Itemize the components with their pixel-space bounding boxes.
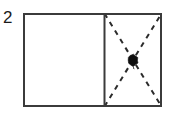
left-cell	[23, 13, 104, 107]
dot-core-shape	[129, 56, 137, 64]
diagram-canvas	[0, 0, 171, 119]
figure-container: 2	[0, 0, 171, 119]
